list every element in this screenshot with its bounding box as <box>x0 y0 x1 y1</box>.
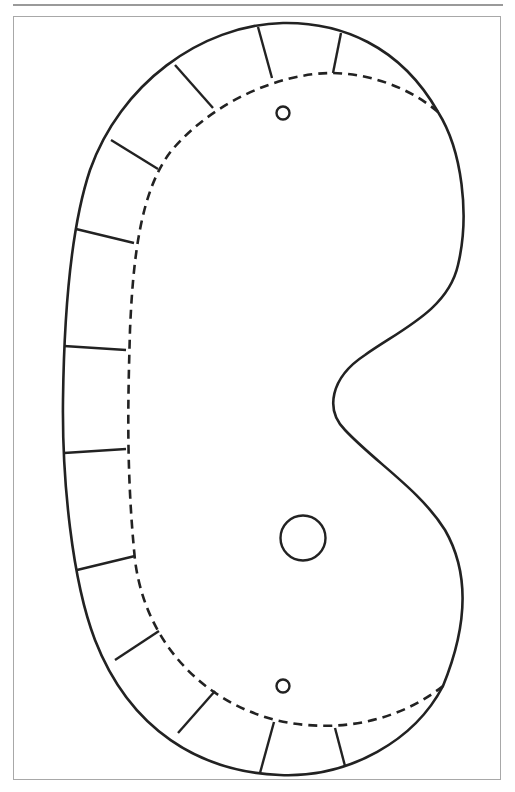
tab-line <box>260 722 274 773</box>
fold-line <box>128 73 443 726</box>
small-hole-top <box>277 107 290 120</box>
tab-line <box>76 229 134 243</box>
tab-line <box>64 449 126 453</box>
tab-line <box>115 631 159 660</box>
tab-line <box>258 27 272 78</box>
large-hole <box>281 516 326 561</box>
template-diagram <box>0 0 515 792</box>
cut-outline <box>63 23 464 775</box>
tab-line <box>333 33 341 73</box>
tab-line <box>111 140 158 169</box>
small-hole-bottom <box>277 680 290 693</box>
tab-line <box>77 556 135 570</box>
tab-line <box>178 691 215 733</box>
tab-line <box>175 65 213 108</box>
tab-line <box>335 728 345 766</box>
tab-line <box>64 346 126 350</box>
